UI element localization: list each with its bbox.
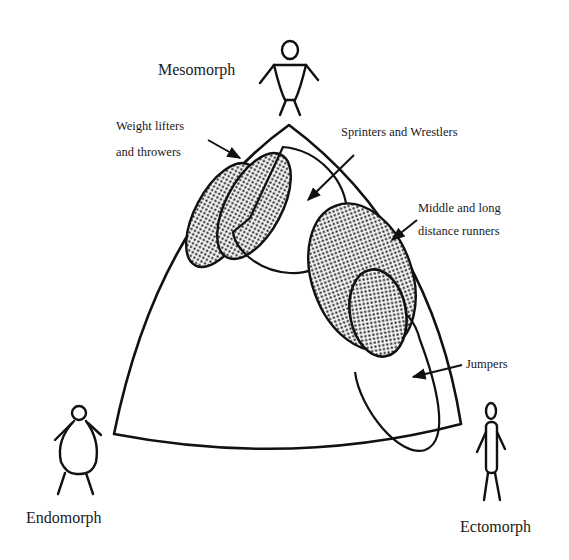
weight-lifters-label-line1: Weight lifters [116,114,184,139]
sprinters-label: Sprinters and Wrestlers [341,120,458,145]
endomorph-figure-icon [55,406,101,494]
arrow-jumpers [413,365,462,377]
jumpers-label: Jumpers [466,352,508,377]
ectomorph-figure-icon [477,403,505,500]
mesomorph-label: Mesomorph [158,61,235,79]
arrow-distance-runners [392,220,417,240]
mesomorph-figure-icon [260,41,318,115]
endomorph-label: Endomorph [26,509,102,527]
distance-runners-label-line1: Middle and long [418,196,501,221]
weight-lifters-label-line2: and throwers [116,140,181,165]
somatotype-diagram [0,0,569,560]
distance-runners-label-line2: distance runners [418,219,500,244]
ectomorph-label: Ectomorph [460,518,531,536]
arrow-weight-lifters [208,140,240,158]
region-weight-lifters [171,142,306,278]
